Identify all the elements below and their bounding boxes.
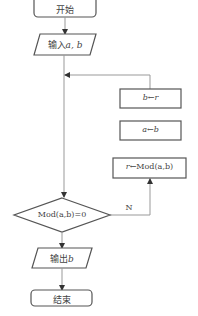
no-branch-label: N xyxy=(122,203,136,212)
assign-a-source: b xyxy=(154,125,159,134)
output-label: 输出b xyxy=(32,252,92,265)
input-vars: a, b xyxy=(66,40,83,50)
end-label: 结束 xyxy=(31,293,92,306)
start-text: 开始 xyxy=(56,5,74,15)
start-label: 开始 xyxy=(34,3,96,16)
flowchart-canvas xyxy=(0,0,198,316)
assign-r-label: r←Mod(a,b) xyxy=(113,162,186,171)
assign-a-label: a←b xyxy=(120,125,181,134)
assign-r-expr: Mod(a,b) xyxy=(136,162,173,171)
assign-arrow: ← xyxy=(147,125,154,134)
no-label: N xyxy=(126,203,133,212)
decision-label: Mod(a,b)=0 xyxy=(14,210,110,219)
input-prefix: 输入 xyxy=(48,40,66,50)
decision-condition: Mod(a,b)=0 xyxy=(38,210,87,219)
assign-b-source: r xyxy=(155,93,159,102)
output-var: b xyxy=(68,254,74,264)
connector-loop-return xyxy=(65,75,150,89)
assign-arrow: ← xyxy=(148,93,155,102)
output-prefix: 输出 xyxy=(50,254,68,264)
assign-b-label: b←r xyxy=(120,93,181,102)
input-label: 输入a, b xyxy=(34,38,96,51)
end-text: 结束 xyxy=(53,295,71,305)
